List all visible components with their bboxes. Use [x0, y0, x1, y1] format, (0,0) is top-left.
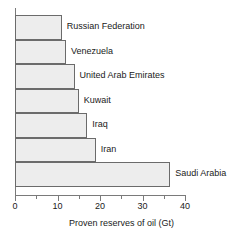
- x-tick-minor: [79, 196, 80, 199]
- x-tick-label: 20: [88, 201, 112, 212]
- bar: [15, 40, 66, 65]
- bar: [15, 162, 170, 187]
- bar-chart: Russian FederationVenezuelaUnited Arab E…: [0, 0, 243, 236]
- x-tick-label: 0: [3, 201, 27, 212]
- x-tick-minor: [164, 196, 165, 199]
- bar-label: United Arab Emirates: [80, 70, 165, 81]
- bar-label: Venezuela: [71, 46, 113, 57]
- bar: [15, 138, 96, 163]
- bar-label: Russian Federation: [67, 21, 145, 32]
- x-tick-label: 30: [131, 201, 155, 212]
- x-tick-minor: [121, 196, 122, 199]
- x-tick-label: 40: [173, 201, 197, 212]
- x-tick-label: 10: [46, 201, 70, 212]
- x-tick-minor: [36, 196, 37, 199]
- bar: [15, 64, 75, 89]
- bar-label: Iran: [101, 144, 117, 155]
- bar: [15, 15, 62, 40]
- x-axis-title: Proven reserves of oil (Gt): [0, 218, 243, 229]
- bar-label: Iraq: [92, 119, 108, 130]
- bar: [15, 89, 79, 114]
- bar-label: Saudi Arabia: [175, 168, 226, 179]
- bar-label: Kuwait: [84, 95, 111, 106]
- bar: [15, 113, 87, 138]
- plot-area: Russian FederationVenezuelaUnited Arab E…: [0, 0, 243, 236]
